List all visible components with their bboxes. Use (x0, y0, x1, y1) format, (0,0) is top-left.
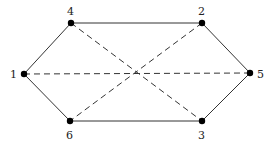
node-label-5: 5 (257, 68, 264, 81)
node-3 (199, 118, 205, 124)
edge-5-3 (202, 73, 250, 121)
node-1 (21, 71, 27, 77)
edges-group (24, 23, 250, 121)
edge-2-6-dashed (70, 23, 202, 121)
node-6 (67, 118, 73, 124)
graph-diagram: 142536 (0, 0, 274, 149)
node-4 (68, 20, 74, 26)
edge-6-1 (24, 74, 70, 121)
edge-1-5-dashed (24, 73, 250, 74)
node-2 (199, 20, 205, 26)
edge-2-5 (202, 23, 250, 73)
node-label-3: 3 (198, 129, 205, 142)
node-label-2: 2 (198, 5, 205, 18)
node-label-1: 1 (10, 68, 17, 81)
node-label-6: 6 (66, 129, 73, 142)
node-5 (247, 70, 253, 76)
node-label-4: 4 (67, 5, 74, 18)
edge-1-4 (24, 23, 71, 74)
